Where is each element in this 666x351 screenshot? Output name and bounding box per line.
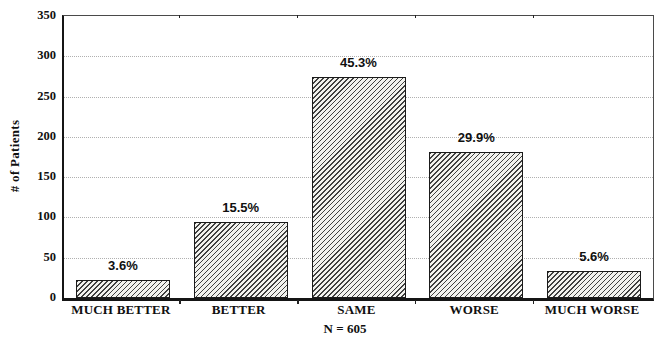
plot-area: 3.6%15.5%45.3%29.9%5.6% (62, 15, 654, 301)
x-axis-tick (179, 300, 181, 304)
top-axis-tick (415, 15, 416, 18)
bar-value-label: 5.6% (535, 250, 653, 264)
x-axis-tick (297, 300, 299, 304)
y-tick-label: 250 (18, 88, 56, 104)
bar-value-label: 29.9% (417, 131, 535, 145)
bar (76, 280, 170, 298)
y-tick-label: 350 (18, 7, 56, 23)
y-tick-label: 0 (18, 289, 56, 305)
y-tick-label: 100 (18, 208, 56, 224)
x-axis-tick (415, 300, 417, 304)
bar-value-label: 15.5% (182, 201, 300, 215)
top-axis-tick (297, 15, 298, 18)
y-tick-label: 150 (18, 168, 56, 184)
y-tick-label: 200 (18, 128, 56, 144)
bar (194, 222, 288, 298)
bar-value-label: 45.3% (300, 56, 418, 70)
bar (312, 77, 406, 298)
x-category-label: MUCH WORSE (523, 302, 661, 317)
chart-container: # of Patients 3.6%15.5%45.3%29.9%5.6% N … (0, 0, 666, 351)
x-axis-tick (533, 300, 535, 304)
y-tick-label: 300 (18, 47, 56, 63)
bar-value-label: 3.6% (64, 259, 182, 273)
bar (429, 152, 523, 298)
y-tick-label: 50 (18, 249, 56, 265)
sample-size-label: N = 605 (245, 321, 445, 337)
bar (547, 271, 641, 298)
top-axis-tick (179, 15, 180, 18)
top-axis-tick (533, 15, 534, 18)
